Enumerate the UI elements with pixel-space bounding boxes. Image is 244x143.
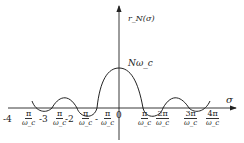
tick-coef-neg2: -2 [65, 114, 74, 124]
tick-neg4pi: π ω_c [22, 110, 35, 127]
peak-label: Nω_c [128, 58, 153, 68]
tick-coef-neg1: - [95, 114, 98, 124]
tick-coef-neg4: -4 [3, 114, 12, 124]
origin-label: 0 [116, 110, 122, 120]
x-axis-label: σ [226, 94, 233, 105]
tick-neg1pi: π ω_c [101, 110, 114, 127]
tick-coef-neg3: -3 [39, 114, 48, 124]
tick-pos2pi: 2π ω_c [156, 110, 169, 127]
tick-pos1pi: π ω_c [138, 110, 151, 127]
tick-neg2pi: π ω_c [79, 110, 92, 127]
tick-pos3pi: 3π ω_c [184, 110, 197, 127]
y-axis-label: r_N(σ) [128, 14, 155, 23]
tick-pos4pi: 4π ω_c [206, 110, 219, 127]
